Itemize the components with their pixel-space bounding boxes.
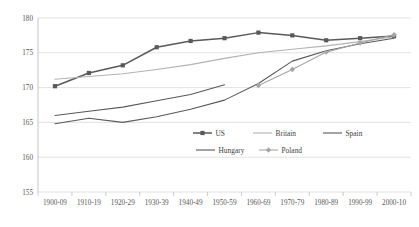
data-point-marker — [222, 36, 226, 40]
x-axis-tick-label: 1940-49 — [179, 199, 203, 207]
x-axis-tick-label: 1960-69 — [246, 199, 270, 207]
data-point-marker — [87, 71, 91, 75]
y-axis-tick-label: 155 — [22, 189, 33, 197]
y-axis-tick-label: 170 — [22, 84, 33, 92]
chart-background — [0, 0, 419, 227]
x-axis-tick-label: 1970-79 — [280, 199, 304, 207]
data-point-marker — [256, 31, 260, 35]
chart-container: 155160165170175180 1900-091910-191920-29… — [0, 0, 419, 227]
data-point-marker — [358, 36, 362, 40]
data-point-marker — [188, 39, 192, 43]
legend-swatch-marker — [200, 131, 204, 135]
x-axis-tick-label: 1910-19 — [77, 199, 101, 207]
data-point-marker — [155, 45, 159, 49]
legend-label: Poland — [282, 146, 303, 155]
y-axis-tick-label: 180 — [22, 15, 33, 23]
legend-label: Britain — [276, 129, 297, 138]
x-axis-tick-label: 1990-99 — [348, 199, 372, 207]
legend-label: US — [216, 129, 225, 138]
legend-label: Hungary — [219, 146, 245, 155]
y-axis-tick-label: 165 — [22, 119, 33, 127]
line-chart: 155160165170175180 1900-091910-191920-29… — [0, 0, 419, 227]
y-axis-tick-label: 175 — [22, 49, 33, 57]
x-axis-tick-labels: 1900-091910-191920-291930-391940-491950-… — [43, 199, 406, 207]
x-axis-tick-label: 1950-59 — [213, 199, 237, 207]
x-axis-tick-label: 1930-39 — [145, 199, 169, 207]
x-axis-tick-label: 2000-10 — [382, 199, 406, 207]
data-point-marker — [290, 33, 294, 37]
data-point-marker — [121, 63, 125, 67]
x-axis-tick-label: 1980-89 — [314, 199, 338, 207]
x-axis-tick-label: 1900-09 — [43, 199, 67, 207]
x-axis-tick-label: 1920-29 — [111, 199, 135, 207]
legend-label: Spain — [346, 129, 363, 138]
data-point-marker — [53, 84, 57, 88]
y-axis-tick-label: 160 — [22, 154, 33, 162]
data-point-marker — [324, 38, 328, 42]
